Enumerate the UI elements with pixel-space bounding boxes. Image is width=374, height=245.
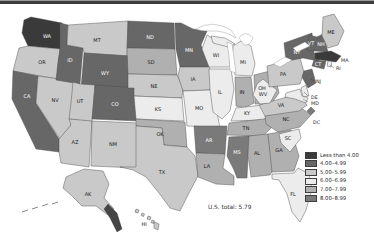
state-label-ID: ID <box>67 57 72 63</box>
state-IA <box>178 67 214 91</box>
state-label-MD: MD <box>311 101 319 106</box>
state-label-AL: AL <box>254 150 260 156</box>
us-total-label: U.S. total: 5.79 <box>208 204 251 210</box>
legend-swatch <box>305 160 317 167</box>
state-label-GA: GA <box>275 147 283 153</box>
state-label-VT: VT <box>308 40 315 46</box>
state-label-IN: IN <box>239 89 244 95</box>
legend-item: Less than 4.00 <box>305 151 359 160</box>
state-label-MT: MT <box>93 37 101 43</box>
state-label-NC: NC <box>282 116 290 122</box>
state-label-NY: NY <box>294 49 302 55</box>
state-label-NE: NE <box>151 83 158 89</box>
legend-swatch <box>305 186 317 193</box>
state-label-SD: SD <box>147 59 154 65</box>
top-border-bar <box>0 0 374 4</box>
state-label-MN: MN <box>185 47 193 53</box>
state-label-DC: DC <box>313 120 321 125</box>
state-NJ <box>302 69 316 88</box>
state-HI <box>135 209 159 230</box>
state-MS <box>227 136 249 178</box>
state-label-OK: OK <box>156 131 164 137</box>
legend-item: 5.00–5.99 <box>305 168 359 177</box>
us-choropleth-map: WAORCANVIDMTWYUTCOAZNMNDSDNEKSOKTXMNIAMO… <box>0 0 374 245</box>
state-label-CO: CO <box>111 101 118 107</box>
legend-item: 4.00–4.99 <box>305 160 359 169</box>
state-label-MA: MA <box>341 58 349 63</box>
state-label-WY: WY <box>101 70 110 76</box>
state-label-WI: WI <box>213 52 219 58</box>
legend-item: 7.00–7.99 <box>305 185 359 194</box>
state-label-NM: NM <box>109 141 117 147</box>
state-label-ME: ME <box>327 29 334 35</box>
legend-label: 8.00–8.99 <box>320 196 346 201</box>
state-label-MI: MI <box>240 59 246 65</box>
state-label-IA: IA <box>191 76 196 82</box>
state-label-CT: CT <box>315 61 322 67</box>
legend-item: 8.00–8.99 <box>305 194 359 203</box>
state-label-DE: DE <box>311 95 318 100</box>
state-label-SC: SC <box>285 135 292 141</box>
state-label-IL: IL <box>218 89 222 95</box>
state-label-ND: ND <box>146 34 154 40</box>
state-label-PA: PA <box>280 71 287 77</box>
state-label-TX: TX <box>158 169 166 175</box>
legend-item: 6.00–6.99 <box>305 177 359 186</box>
state-label-CA: CA <box>24 93 31 99</box>
state-label-NH: NH <box>317 41 325 47</box>
state-label-VA: VA <box>278 102 285 108</box>
state-label-WA: WA <box>43 33 52 39</box>
state-label-AR: AR <box>206 137 213 143</box>
state-label-UT: UT <box>77 98 85 104</box>
state-label-WV: WV <box>259 91 268 97</box>
legend-label: 5.00–5.99 <box>320 170 346 175</box>
state-label-MO: MO <box>195 105 203 111</box>
legend-swatch <box>305 178 317 185</box>
map-legend: Less than 4.004.00–4.995.00–5.996.00–6.9… <box>305 151 359 203</box>
state-label-MS: MS <box>233 149 241 155</box>
state-label-NV: NV <box>51 97 59 103</box>
legend-label: 6.00–6.99 <box>320 178 346 183</box>
state-label-TN: TN <box>242 125 250 131</box>
state-label-LA: LA <box>204 163 211 169</box>
state-label-AK: AK <box>85 191 92 197</box>
aleutian-islands <box>22 202 58 212</box>
state-label-RI: RI <box>336 66 341 71</box>
state-label-AZ: AZ <box>72 139 79 145</box>
state-label-KS: KS <box>155 106 161 112</box>
legend-label: 7.00–7.99 <box>320 187 346 192</box>
legend-label: Less than 4.00 <box>320 153 359 158</box>
legend-label: 4.00–4.99 <box>320 161 346 166</box>
legend-swatch <box>305 169 317 176</box>
state-label-FL: FL <box>290 191 296 197</box>
state-label-OR: OR <box>38 59 46 65</box>
state-label-HI: HI <box>141 221 146 227</box>
legend-swatch <box>305 195 317 202</box>
state-label-NJ: NJ <box>316 79 321 84</box>
state-label-KY: KY <box>244 110 251 116</box>
legend-swatch <box>305 152 317 159</box>
